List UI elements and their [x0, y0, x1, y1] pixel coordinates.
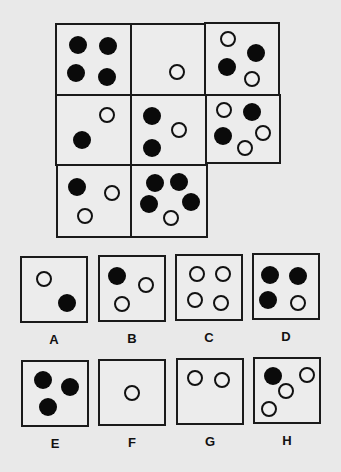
hollow-circle-icon [138, 277, 154, 293]
option-label-b: B [98, 331, 166, 346]
hollow-circle-icon [99, 107, 115, 123]
filled-circle-icon [34, 371, 52, 389]
option-f[interactable] [98, 359, 166, 426]
option-e[interactable] [21, 360, 89, 427]
filled-circle-icon [214, 127, 232, 145]
hollow-circle-icon [187, 292, 203, 308]
hollow-circle-icon [255, 125, 271, 141]
hollow-circle-icon [216, 102, 232, 118]
hollow-circle-icon [169, 64, 185, 80]
matrix-cell-5 [130, 94, 207, 166]
hollow-circle-icon [189, 266, 205, 282]
matrix-cell-7 [56, 164, 132, 238]
matrix-cell-2 [130, 23, 206, 96]
filled-circle-icon [261, 266, 279, 284]
hollow-circle-icon [163, 210, 179, 226]
hollow-circle-icon [187, 370, 203, 386]
option-label-h: H [253, 433, 321, 448]
option-h[interactable] [253, 357, 321, 424]
filled-circle-icon [99, 37, 117, 55]
hollow-circle-icon [36, 271, 52, 287]
hollow-circle-icon [214, 372, 230, 388]
filled-circle-icon [98, 68, 116, 86]
matrix-cell-3 [204, 22, 280, 96]
matrix-cell-6 [205, 94, 281, 164]
hollow-circle-icon [171, 122, 187, 138]
filled-circle-icon [143, 139, 161, 157]
filled-circle-icon [73, 131, 91, 149]
option-label-d: D [252, 329, 320, 344]
hollow-circle-icon [237, 140, 253, 156]
option-label-f: F [98, 435, 166, 450]
option-d[interactable] [252, 253, 320, 320]
filled-circle-icon [247, 44, 265, 62]
option-label-g: G [176, 434, 244, 449]
hollow-circle-icon [104, 185, 120, 201]
filled-circle-icon [69, 36, 87, 54]
hollow-circle-icon [220, 31, 236, 47]
filled-circle-icon [289, 267, 307, 285]
option-a[interactable] [20, 256, 88, 323]
option-c[interactable] [175, 254, 243, 321]
matrix-cell-1 [55, 23, 132, 96]
filled-circle-icon [140, 195, 158, 213]
filled-circle-icon [58, 294, 76, 312]
filled-circle-icon [243, 103, 261, 121]
hollow-circle-icon [77, 208, 93, 224]
option-g[interactable] [176, 358, 244, 425]
filled-circle-icon [143, 107, 161, 125]
filled-circle-icon [259, 291, 277, 309]
option-label-e: E [21, 436, 89, 451]
filled-circle-icon [218, 58, 236, 76]
hollow-circle-icon [124, 385, 140, 401]
filled-circle-icon [67, 64, 85, 82]
filled-circle-icon [170, 173, 188, 191]
hollow-circle-icon [278, 383, 294, 399]
filled-circle-icon [39, 398, 57, 416]
hollow-circle-icon [299, 367, 315, 383]
hollow-circle-icon [261, 401, 277, 417]
option-label-c: C [175, 330, 243, 345]
filled-circle-icon [182, 193, 200, 211]
option-b[interactable] [98, 255, 166, 322]
matrix-cell-8 [130, 164, 208, 238]
option-label-a: A [20, 332, 88, 347]
hollow-circle-icon [215, 266, 231, 282]
hollow-circle-icon [213, 295, 229, 311]
filled-circle-icon [61, 378, 79, 396]
filled-circle-icon [108, 267, 126, 285]
hollow-circle-icon [244, 71, 260, 87]
matrix-cell-4 [55, 94, 132, 166]
filled-circle-icon [146, 174, 164, 192]
filled-circle-icon [264, 367, 282, 385]
filled-circle-icon [68, 178, 86, 196]
hollow-circle-icon [290, 295, 306, 311]
hollow-circle-icon [114, 296, 130, 312]
